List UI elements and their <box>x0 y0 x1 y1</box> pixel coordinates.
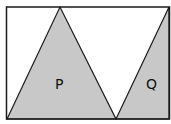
label-q: Q <box>146 76 157 92</box>
label-p: P <box>55 76 63 92</box>
diagram-canvas: P Q <box>0 0 171 124</box>
